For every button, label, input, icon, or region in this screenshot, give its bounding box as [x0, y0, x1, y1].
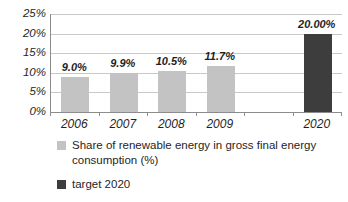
y-axis-tick-label: 15%	[4, 46, 46, 58]
gridline	[51, 92, 342, 93]
legend-item-share: Share of renewable energy in gross final…	[57, 138, 343, 168]
data-label-2020: 20.00%	[285, 18, 348, 30]
gridline	[51, 14, 342, 15]
bar-2008	[158, 71, 186, 112]
y-axis-tick-label: 0%	[4, 105, 46, 117]
x-axis-tick-label: 2020	[287, 117, 347, 131]
y-axis-tick-label: 10%	[4, 66, 46, 78]
x-axis-tick	[244, 113, 245, 116]
x-axis-tick	[196, 113, 197, 116]
x-axis-tick-label: 2009	[190, 117, 250, 131]
x-axis-tick	[99, 113, 100, 116]
y-axis-tick-label: 20%	[4, 27, 46, 39]
bar-2020	[304, 34, 332, 112]
gridline	[51, 73, 342, 74]
legend-swatch-share	[57, 141, 66, 150]
x-axis-tick	[147, 113, 148, 116]
gridline	[51, 34, 342, 35]
bar-2007	[110, 73, 138, 112]
x-axis-tick	[293, 113, 294, 116]
bar-2009	[207, 66, 235, 112]
data-label-2009: 11.7%	[188, 50, 252, 62]
legend-label-target: target 2020	[72, 177, 130, 192]
y-axis-tick-label: 25%	[4, 7, 46, 19]
y-axis-tick-label: 5%	[4, 85, 46, 97]
x-axis-tick	[341, 113, 342, 116]
bar-2006	[61, 77, 89, 112]
legend: Share of renewable energy in gross final…	[57, 138, 343, 201]
bar-chart: Share of renewable energy in gross final…	[0, 0, 348, 202]
x-axis-tick	[50, 113, 51, 116]
legend-label-share: Share of renewable energy in gross final…	[72, 138, 340, 168]
legend-item-target: target 2020	[57, 177, 343, 192]
legend-swatch-target	[57, 180, 66, 189]
